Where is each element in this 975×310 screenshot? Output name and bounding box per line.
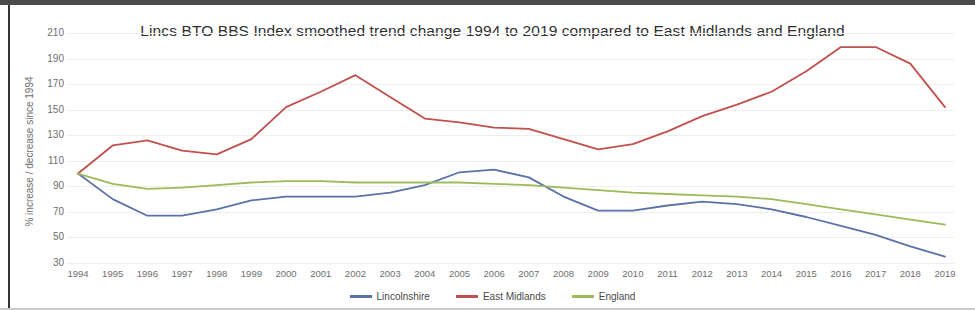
chart-legend: LincolnshireEast MidlandsEngland bbox=[10, 291, 975, 302]
legend-swatch-icon bbox=[572, 295, 594, 298]
legend-item[interactable]: Lincolnshire bbox=[350, 291, 430, 302]
legend-label: England bbox=[599, 291, 636, 302]
y-tick-label: 50 bbox=[38, 232, 64, 242]
legend-swatch-icon bbox=[350, 295, 372, 298]
y-tick-label: 90 bbox=[38, 181, 64, 191]
y-tick-label: 70 bbox=[38, 207, 64, 217]
legend-item[interactable]: East Midlands bbox=[456, 291, 546, 302]
y-tick-label: 110 bbox=[38, 156, 64, 166]
plot-area bbox=[68, 33, 955, 263]
scan-top-edge bbox=[0, 0, 975, 5]
x-axis-tick-labels: 1994199519961997199819992000200120022003… bbox=[68, 268, 955, 282]
gridline bbox=[68, 263, 955, 264]
legend-item[interactable]: England bbox=[572, 291, 636, 302]
chart-container: Lincs BTO BBS Index smoothed trend chang… bbox=[10, 6, 975, 308]
legend-swatch-icon bbox=[456, 295, 478, 298]
series-lines bbox=[68, 33, 955, 263]
y-tick-label: 210 bbox=[38, 28, 64, 38]
y-tick-label: 150 bbox=[38, 105, 64, 115]
legend-label: Lincolnshire bbox=[377, 291, 430, 302]
series-line bbox=[78, 47, 945, 174]
y-tick-label: 130 bbox=[38, 130, 64, 140]
legend-label: East Midlands bbox=[483, 291, 546, 302]
chart-page: Lincs BTO BBS Index smoothed trend chang… bbox=[0, 0, 975, 310]
y-tick-label: 170 bbox=[38, 79, 64, 89]
x-tick-label: 2019 bbox=[925, 268, 965, 279]
y-tick-label: 30 bbox=[38, 258, 64, 268]
series-line bbox=[78, 170, 945, 257]
y-axis-tick-labels: 30507090110130150170190210 bbox=[30, 33, 64, 263]
y-tick-label: 190 bbox=[38, 54, 64, 64]
series-line bbox=[78, 174, 945, 225]
